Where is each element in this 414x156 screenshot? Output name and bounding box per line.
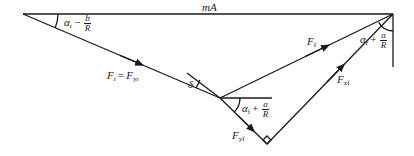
- rear-angle-arc: [55, 14, 58, 28]
- front-upper-angle-label: αf+aR: [360, 31, 387, 50]
- rear-force-arrow-icon: [120, 55, 140, 64]
- front-lower-angle-label: αf+aR: [242, 100, 269, 119]
- force-diagram: [0, 0, 414, 156]
- front-force-label: Ff: [307, 36, 316, 49]
- front-longitudinal-force-label: Fxf: [337, 74, 350, 87]
- rear-angle-label: αr−bR: [64, 14, 91, 33]
- delta-label: δ: [188, 79, 193, 90]
- rear-force-label: Fr=Fyr: [107, 70, 139, 83]
- front-lateral-force-label: Fyf: [232, 130, 245, 143]
- mA-label: mA: [202, 2, 217, 13]
- right-angle-marker: [263, 136, 271, 144]
- front-lower-angle-arc: [234, 98, 240, 112]
